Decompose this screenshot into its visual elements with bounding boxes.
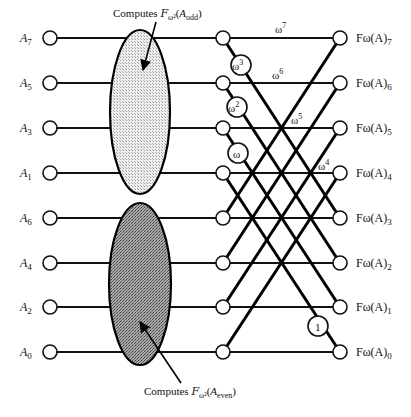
edge-label-w6: ω6 [272,68,283,81]
input-label-a4: A4 [20,257,32,272]
input-label-a5: A5 [20,77,32,92]
horizontal-edges [230,38,333,352]
twiddle-label-w3: ω3 [232,59,243,72]
input-nodes [43,31,57,359]
input-label-a6: A6 [20,212,32,227]
output-label-f0: Fω(A)0 [356,346,392,361]
input-label-a1: A1 [20,167,32,182]
output-label-f7: Fω(A)7 [356,32,392,47]
diagonal-edges [223,38,340,352]
output-nodes [333,31,347,359]
twiddle-label-w2: ω2 [228,101,239,114]
input-label-a3: A3 [20,122,32,137]
even-block-caption: Computes Fω²(Aeven) [144,386,236,400]
twiddle-circles [227,55,328,336]
output-label-f3: Fω(A)3 [356,212,392,227]
butterfly-diagram [0,0,411,417]
output-label-f2: Fω(A)2 [356,257,392,272]
edge-label-w5: ω5 [291,113,302,126]
output-label-f6: Fω(A)6 [356,77,392,92]
even-subfft-ellipse [109,203,171,365]
output-label-f4: Fω(A)4 [356,167,392,182]
odd-subfft-ellipse [110,30,170,194]
odd-block-caption: Computes Fω²(Aodd) [113,8,202,22]
middle-nodes [216,31,230,359]
input-label-a0: A0 [20,346,32,361]
input-label-a7: A7 [20,32,32,47]
output-label-f1: Fω(A)1 [356,301,392,316]
edge-label-w4: ω4 [318,159,329,172]
twiddle-label-w1: ω [233,147,240,160]
twiddle-label-one: 1 [315,320,321,333]
output-label-f5: Fω(A)5 [356,122,392,137]
input-label-a2: A2 [20,301,32,316]
edge-label-w7: ω7 [275,22,286,35]
